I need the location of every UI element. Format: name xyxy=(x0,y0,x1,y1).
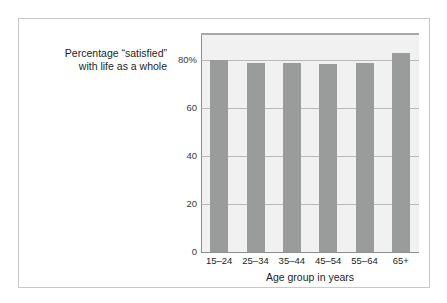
y-tick-label: 0 xyxy=(163,246,197,257)
x-tick-label: 35–44 xyxy=(279,255,305,266)
bars-series xyxy=(201,35,419,253)
plot-area xyxy=(201,33,419,253)
y-tick-label: 80% xyxy=(163,54,197,65)
y-tick-label: 20 xyxy=(163,198,197,209)
bar xyxy=(392,53,410,252)
y-axis-tick-labels: 020406080% xyxy=(159,33,197,253)
x-tick-label: 25–34 xyxy=(242,255,268,266)
bar xyxy=(210,60,228,252)
bar xyxy=(247,63,265,252)
y-tick-label: 60 xyxy=(163,102,197,113)
x-tick-label: 65+ xyxy=(393,255,409,266)
bar xyxy=(319,64,337,252)
x-axis-tick-labels: 15–2425–3435–4445–5455–6465+ xyxy=(201,255,419,271)
x-axis-title: Age group in years xyxy=(201,271,419,283)
x-tick-label: 45–54 xyxy=(315,255,341,266)
bar xyxy=(356,63,374,252)
figure-frame: Percentage “satisfied” with life as a wh… xyxy=(18,18,430,288)
bar xyxy=(283,63,301,252)
y-tick-label: 40 xyxy=(163,150,197,161)
x-tick-label: 55–64 xyxy=(351,255,377,266)
y-axis-title: Percentage “satisfied” with life as a wh… xyxy=(27,47,167,73)
x-tick-label: 15–24 xyxy=(206,255,232,266)
